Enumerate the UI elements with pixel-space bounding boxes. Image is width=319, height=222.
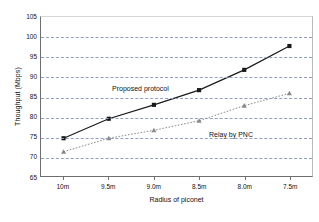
gridline [41, 118, 312, 119]
data-point-marker [197, 88, 201, 92]
series-line-relay-by-pnc [64, 93, 290, 151]
gridline [41, 77, 312, 78]
x-axis-tick-label: 10m [48, 183, 78, 191]
data-point-marker [61, 149, 66, 154]
gridline [41, 98, 312, 99]
x-axis-tick-label: 8.0m [230, 183, 260, 191]
data-point-marker [287, 44, 291, 48]
y-axis-tick-label: 65 [19, 174, 37, 181]
y-axis-tick-label: 85 [19, 93, 37, 100]
series-label-proposed-protocol: Proposed protocol [112, 84, 169, 93]
y-axis-tick-labels: 10510095908580757065 [19, 0, 37, 222]
x-axis-tick-mark [199, 177, 200, 180]
chart-figure: Thoughput (Mbps) 10510095908580757065 10… [0, 0, 319, 222]
plot-area [40, 16, 313, 177]
data-point-marker [152, 103, 156, 107]
data-point-marker [151, 128, 156, 133]
series-line-proposed-protocol [64, 46, 290, 138]
y-axis-tick-label: 90 [19, 73, 37, 80]
series-label-relay-by-pnc: Relay by PNC [209, 130, 253, 139]
x-axis-tick-mark [63, 177, 64, 180]
data-point-marker [287, 91, 292, 96]
y-axis-tick-label: 70 [19, 153, 37, 160]
x-axis-title: Radius of piconet [40, 195, 313, 204]
x-axis-tick-label: 7.5m [275, 183, 305, 191]
gridline [41, 138, 312, 139]
gridline [41, 158, 312, 159]
x-axis-tick-label: 9.5m [93, 183, 123, 191]
y-axis-tick-label: 95 [19, 53, 37, 60]
y-axis-tick-label: 100 [19, 33, 37, 40]
y-axis-tick-label: 75 [19, 133, 37, 140]
y-axis-tick-label: 80 [19, 113, 37, 120]
y-axis-tick-label: 105 [19, 13, 37, 20]
x-axis-tick-mark [290, 177, 291, 180]
x-axis-tick-label: 9.0m [139, 183, 169, 191]
x-axis-tick-mark [108, 177, 109, 180]
data-point-marker [242, 68, 246, 72]
x-axis-tick-mark [245, 177, 246, 180]
gridline [41, 37, 312, 38]
x-axis-tick-label: 8.5m [184, 183, 214, 191]
x-axis-tick-mark [154, 177, 155, 180]
gridline [41, 57, 312, 58]
series-canvas [41, 17, 312, 176]
